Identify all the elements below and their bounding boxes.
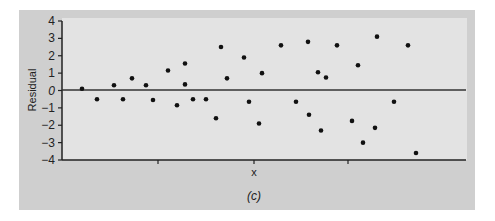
y-tick-label: 1 [48, 66, 55, 80]
x-axis [62, 160, 466, 164]
data-point [392, 99, 397, 104]
data-point [316, 70, 321, 75]
data-point [204, 97, 209, 102]
data-point [144, 83, 149, 88]
x-axis-title: x [251, 166, 257, 178]
data-point [175, 103, 180, 108]
data-point [414, 151, 419, 156]
y-tick-label: 2 [48, 49, 55, 63]
data-point [191, 97, 196, 102]
y-tick-label: −2 [41, 118, 55, 132]
data-point [335, 43, 340, 48]
data-point [375, 34, 380, 39]
data-point [307, 113, 312, 118]
residual-scatter-plot: −4−3−2−101234 Residual x (c) [0, 0, 495, 221]
data-point [260, 71, 265, 76]
data-point [225, 76, 230, 81]
data-point [80, 86, 85, 91]
data-point [183, 82, 188, 87]
y-axis-title: Residual [26, 69, 38, 112]
y-tick-label: 3 [48, 31, 55, 45]
data-point [242, 55, 247, 60]
data-point [350, 119, 355, 124]
data-point [130, 76, 135, 81]
y-tick-label: 4 [48, 14, 55, 28]
y-tick-label: −3 [41, 136, 55, 150]
plot-area [62, 18, 467, 160]
data-point [95, 97, 100, 102]
data-point [306, 40, 311, 45]
figure-caption: (c) [247, 189, 261, 203]
data-point [294, 99, 299, 104]
y-tick-label: 0 [48, 84, 55, 98]
y-tick-label: −1 [41, 101, 55, 115]
data-point [112, 83, 117, 88]
data-point [373, 126, 378, 131]
data-point [406, 43, 411, 48]
data-point [324, 75, 329, 80]
data-point [183, 61, 188, 66]
data-point [279, 43, 284, 48]
data-point [151, 98, 156, 103]
data-point [257, 121, 262, 126]
data-point [361, 140, 366, 145]
data-point [247, 99, 252, 104]
data-point [166, 68, 171, 73]
y-tick-label: −4 [41, 153, 55, 167]
data-point [214, 116, 219, 121]
data-point [219, 45, 224, 50]
data-point [121, 97, 126, 102]
data-point [356, 63, 361, 68]
y-axis: −4−3−2−101234 [41, 14, 62, 167]
data-point [319, 128, 324, 133]
